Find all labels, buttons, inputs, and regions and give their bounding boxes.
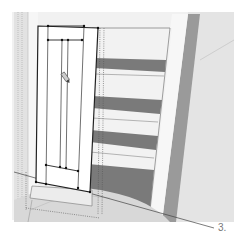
step-label: 3. bbox=[218, 222, 226, 233]
model-viewport bbox=[0, 0, 234, 243]
